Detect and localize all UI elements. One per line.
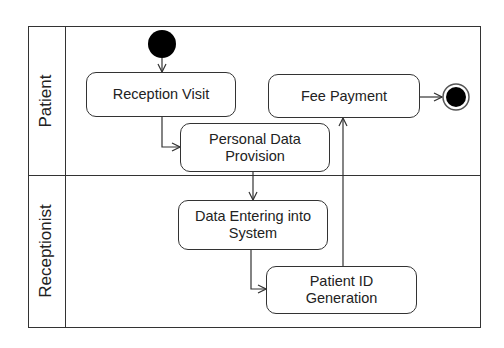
action-patient-id-generation: Patient ID Generation bbox=[266, 266, 417, 314]
edge-reception-to-personal bbox=[162, 116, 180, 147]
action-label-line2: Provision bbox=[225, 148, 285, 165]
action-label: Reception Visit bbox=[113, 86, 209, 103]
action-label-line2: System bbox=[229, 225, 277, 242]
action-reception-visit: Reception Visit bbox=[86, 72, 236, 117]
action-data-entering: Data Entering into System bbox=[178, 200, 328, 250]
action-label-line1: Data Entering into bbox=[195, 208, 311, 225]
action-personal-data-provision: Personal Data Provision bbox=[180, 123, 330, 172]
action-label: Fee Payment bbox=[301, 88, 387, 105]
action-label-line1: Patient ID bbox=[310, 273, 374, 290]
action-fee-payment: Fee Payment bbox=[268, 74, 420, 118]
edge-dataentry-to-patientid bbox=[251, 250, 266, 289]
initial-node-icon bbox=[148, 30, 176, 58]
action-label-line2: Generation bbox=[306, 290, 378, 307]
action-label-line1: Personal Data bbox=[209, 131, 301, 148]
edges-layer bbox=[0, 0, 504, 348]
